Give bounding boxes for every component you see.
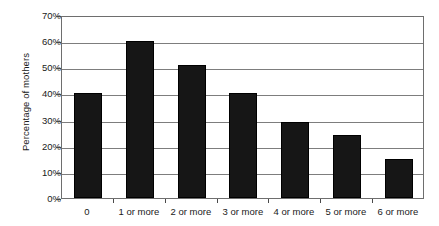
bar bbox=[281, 122, 309, 198]
x-tick-label: 3 or more bbox=[217, 206, 269, 217]
bar bbox=[126, 41, 154, 198]
x-tick-label: 4 or more bbox=[268, 206, 320, 217]
bar bbox=[385, 159, 413, 198]
x-tick-label: 0 bbox=[61, 206, 113, 217]
bar bbox=[229, 93, 257, 198]
y-tick-label: 50% bbox=[17, 63, 61, 73]
y-tick-label: 10% bbox=[17, 168, 61, 178]
y-tick-label: 70% bbox=[17, 11, 61, 21]
bar bbox=[74, 93, 102, 198]
x-tick-label: 2 or more bbox=[165, 206, 217, 217]
x-tick-label: 1 or more bbox=[113, 206, 165, 217]
y-tick-label: 0% bbox=[17, 194, 61, 204]
y-tick-label: 30% bbox=[17, 116, 61, 126]
x-tick-mark bbox=[113, 199, 114, 203]
y-tick-label: 60% bbox=[17, 37, 61, 47]
y-tick-label: 40% bbox=[17, 89, 61, 99]
plot-area bbox=[61, 16, 424, 199]
bar bbox=[333, 135, 361, 198]
y-axis-tick-group: 0%10%20%30%40%50%60%70% bbox=[5, 16, 61, 199]
x-axis-tick-group: 01 or more2 or more3 or more4 or more5 o… bbox=[61, 199, 424, 226]
bar bbox=[178, 65, 206, 198]
x-tick-mark bbox=[320, 199, 321, 203]
x-tick-mark bbox=[165, 199, 166, 203]
x-tick-mark bbox=[268, 199, 269, 203]
x-tick-mark bbox=[217, 199, 218, 203]
gridline bbox=[62, 43, 423, 44]
x-tick-mark bbox=[372, 199, 373, 203]
gridline bbox=[62, 69, 423, 70]
x-tick-label: 5 or more bbox=[320, 206, 372, 217]
x-tick-label: 6 or more bbox=[372, 206, 424, 217]
y-tick-label: 20% bbox=[17, 142, 61, 152]
bar-chart-figure: Percentage of mothers 0%10%20%30%40%50%6… bbox=[0, 0, 439, 226]
